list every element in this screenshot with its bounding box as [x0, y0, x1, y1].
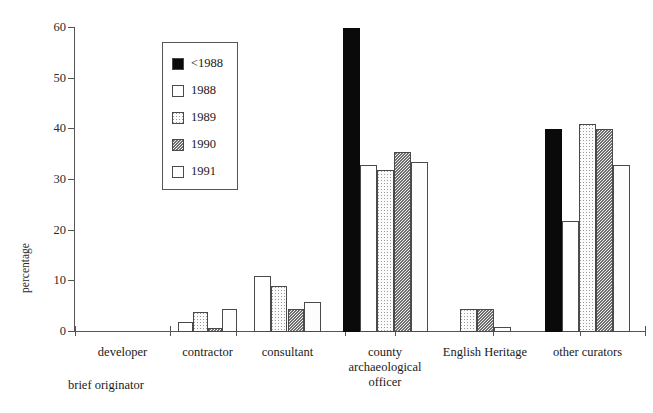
bar-4-1989	[460, 309, 477, 332]
bar-3-1989	[377, 170, 394, 332]
legend-label: 1990	[191, 138, 216, 151]
bar-5-1990	[596, 129, 613, 332]
bar-3-1991	[411, 162, 428, 332]
bar-1-1991	[222, 309, 237, 332]
bar-2-1988	[254, 276, 271, 332]
bar-2-1990	[288, 309, 305, 332]
legend-swatch-icon	[172, 58, 184, 70]
x-label-5: other curators	[528, 345, 648, 360]
legend-item-1990: 1990	[163, 131, 237, 158]
legend-swatch-icon	[172, 112, 184, 124]
bars-layer	[0, 0, 653, 332]
bar-2-1989	[271, 286, 288, 332]
legend-swatch-icon	[172, 85, 184, 97]
bar-group-2	[245, 28, 330, 332]
bar-group-4	[440, 28, 530, 332]
bar-4-1990	[477, 309, 494, 332]
bar-5-1991	[613, 165, 630, 332]
bar-5-1988	[562, 221, 579, 332]
bar-4-1991	[494, 327, 511, 332]
legend-label: 1989	[191, 111, 216, 124]
bar-1-1988	[178, 322, 193, 332]
legend-item-1991: 1991	[163, 158, 237, 185]
bar-group-5	[530, 28, 645, 332]
bar-5-1989	[579, 124, 596, 332]
bar-2-1991	[304, 302, 321, 332]
legend-item-1989: 1989	[163, 104, 237, 131]
bar-3-lt1988	[343, 28, 360, 332]
legend-label: 1991	[191, 165, 216, 178]
legend-label: <1988	[191, 57, 223, 70]
bar-1-1989	[193, 312, 208, 332]
bar-3-1988	[360, 165, 377, 332]
x-axis-title: brief originator	[36, 378, 176, 392]
bar-chart: 0102030405060 percentage <19881988198919…	[0, 0, 653, 413]
x-label-line: officer	[325, 375, 445, 390]
bar-group-3	[330, 28, 440, 332]
legend-swatch-icon	[172, 166, 184, 178]
x-label-line: other curators	[528, 345, 648, 360]
legend-label: 1988	[191, 84, 216, 97]
bar-5-lt1988	[545, 129, 562, 332]
bar-1-1990	[208, 328, 223, 332]
x-label-line: archaeological	[325, 360, 445, 375]
legend-item-lt1988: <1988	[163, 50, 237, 77]
legend-item-1988: 1988	[163, 77, 237, 104]
bar-group-0	[75, 28, 170, 332]
bar-3-1990	[394, 152, 411, 332]
legend-swatch-icon	[172, 139, 184, 151]
legend: <19881988198919901991	[162, 42, 238, 190]
